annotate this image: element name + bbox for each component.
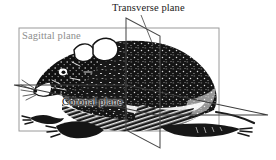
rodent-ear-front <box>74 44 94 62</box>
rodent-tail <box>216 112 254 123</box>
rodent-ear-back <box>93 38 118 61</box>
transverse-leader-line <box>141 15 153 45</box>
sagittal-plane-label: Sagittal plane <box>22 31 81 42</box>
rodent-front-foot-far <box>30 115 64 124</box>
transverse-plane-label: Transverse plane <box>112 3 185 14</box>
coronal-plane-label: Coronal plane <box>62 97 123 108</box>
rodent-whiskers <box>21 80 36 100</box>
planes-diagram-svg <box>0 0 276 160</box>
rodent-hind-foot <box>160 124 240 137</box>
anatomical-planes-figure: Transverse plane Sagittal plane Coronal … <box>0 0 276 160</box>
